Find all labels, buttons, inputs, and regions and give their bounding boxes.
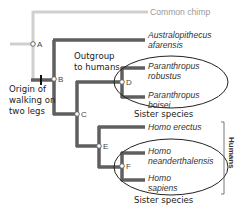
- origin-label-line1: Origin of: [9, 84, 46, 94]
- origin-label-line3: two legs: [9, 106, 45, 116]
- taxon-afarensis-species: afarensis: [148, 40, 183, 50]
- humans-bracket-label: Humans: [227, 137, 236, 169]
- node-e: [97, 144, 102, 149]
- node-e-label: E: [103, 142, 108, 151]
- node-d: [120, 80, 125, 85]
- node-a: [31, 42, 36, 47]
- taxon-robustus-species: robustus: [148, 71, 181, 81]
- node-c: [75, 112, 80, 117]
- taxon-neanderthalensis-species: neanderthalensis: [148, 156, 213, 166]
- humans-bracket: [221, 122, 224, 194]
- taxon-afarensis-genus: Australopithecus: [148, 30, 212, 40]
- node-a-label: A: [37, 40, 42, 49]
- taxon-sapiens-genus: Homo: [148, 173, 171, 183]
- sister-species-label-top: Sister species: [134, 109, 193, 119]
- sister-species-label-bottom: Sister species: [134, 195, 193, 205]
- node-d-label: D: [126, 78, 132, 87]
- node-c-label: C: [81, 110, 87, 119]
- taxon-homo-erectus: Homo erectus: [148, 122, 202, 132]
- outgroup-label-line1: Outgroup: [74, 51, 115, 61]
- taxon-boisei-genus: Paranthropus: [148, 90, 200, 100]
- node-b: [52, 77, 57, 82]
- outgroup-label-line2: to humans: [74, 62, 120, 72]
- node-f-label: F: [126, 162, 131, 171]
- node-b-label: B: [58, 75, 63, 84]
- taxon-robustus-genus: Paranthropus: [148, 61, 200, 71]
- node-f: [120, 164, 125, 169]
- origin-label-line2: walking on: [9, 95, 55, 105]
- taxon-neanderthalensis-genus: Homo: [148, 146, 171, 156]
- taxon-common-chimp: Common chimp: [150, 7, 210, 17]
- taxon-sapiens-species: sapiens: [148, 183, 178, 193]
